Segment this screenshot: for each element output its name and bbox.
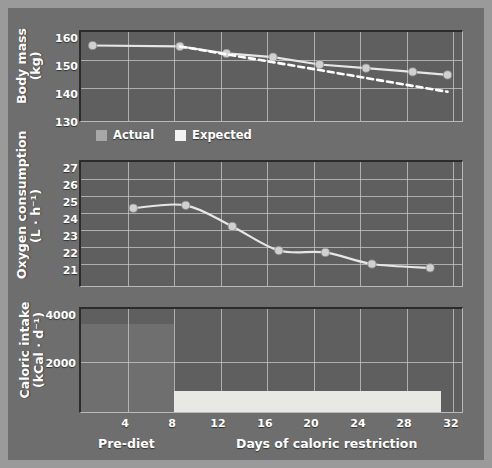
ytick-21: 21 [50, 265, 78, 276]
axis-label-oxygen-consumption: Oxygen consumption (L · h⁻¹) [15, 153, 43, 279]
xtick-4: 4 [108, 418, 142, 429]
plot-area-oxygen-consumption [79, 160, 463, 287]
ytick-25: 25 [50, 197, 78, 208]
ytick-23: 23 [50, 231, 78, 242]
axis-label-body-mass: Body mass (kg) [15, 23, 43, 109]
xaxis-title-days-of-caloric-restriction: Days of caloric restriction [236, 436, 417, 451]
xtick-24: 24 [341, 418, 375, 429]
xtick-32: 32 [434, 418, 468, 429]
ytick-24: 24 [50, 214, 78, 225]
ytick-130: 130 [48, 117, 78, 128]
xtick-8: 8 [155, 418, 189, 429]
plot-area-body-mass [79, 30, 463, 122]
bar-restricted-intake [174, 391, 441, 412]
legend-swatch-actual [96, 130, 107, 141]
legend-label-expected: Expected [192, 128, 252, 142]
ytick-150: 150 [48, 61, 78, 72]
ytick-140: 140 [48, 89, 78, 100]
ytick-27: 27 [50, 163, 78, 174]
ytick-2000: 2000 [32, 358, 76, 369]
axis-label-line-1: Oxygen consumption [15, 153, 29, 279]
figure-panel-group: Body mass (kg) 160 150 140 130 Actual [8, 8, 484, 460]
xtick-16: 16 [248, 418, 282, 429]
legend-entry-expected: Expected [175, 128, 252, 142]
gridline-v [128, 309, 129, 412]
xtick-28: 28 [387, 418, 421, 429]
legend-body-mass: Actual Expected [96, 128, 266, 142]
series-body-mass [81, 32, 463, 122]
legend-entry-actual: Actual [96, 128, 154, 142]
panel-body-mass: Body mass (kg) 160 150 140 130 Actual [8, 8, 484, 153]
axis-label-line-1: Body mass [15, 23, 29, 109]
panel-caloric-intake: Caloric intake (kCal · d⁻¹) 4000 2000 4 … [8, 296, 484, 460]
axis-label-line-1: Caloric intake [18, 298, 32, 402]
ytick-4000: 4000 [32, 310, 76, 321]
xaxis-title-pre-diet: Pre-diet [98, 436, 155, 451]
gridline-v [453, 309, 454, 412]
panel-oxygen-consumption: Oxygen consumption (L · h⁻¹) 27 26 25 24… [8, 153, 484, 296]
series-oxygen-consumption [81, 162, 463, 287]
ytick-22: 22 [50, 248, 78, 259]
legend-swatch-expected [175, 130, 186, 141]
ytick-160: 160 [48, 33, 78, 44]
ytick-26: 26 [50, 180, 78, 191]
gridline-h [81, 362, 462, 363]
legend-label-actual: Actual [113, 128, 154, 142]
xtick-20: 20 [294, 418, 328, 429]
axis-label-line-2: (L · h⁻¹) [29, 153, 43, 279]
plot-area-caloric-intake [79, 307, 463, 413]
xtick-12: 12 [201, 418, 235, 429]
axis-label-line-2: (kg) [29, 23, 43, 109]
